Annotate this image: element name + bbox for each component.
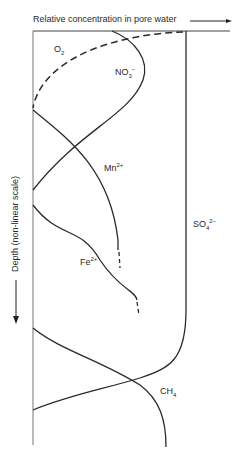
depth-arrow-icon	[13, 316, 19, 324]
fe-curve	[33, 205, 137, 300]
ch4-curve	[33, 328, 166, 447]
no3-curve	[33, 31, 145, 190]
label-so4: SO42−	[193, 218, 216, 231]
x-axis-arrow-icon	[226, 19, 232, 23]
y-axis-label: Depth (non-linear scale)	[10, 176, 20, 272]
label-o2: O2	[54, 44, 64, 56]
label-mn: Mn2+	[104, 162, 123, 173]
mn-curve-dashed-end	[119, 252, 120, 268]
label-no3: NO3−	[115, 66, 135, 79]
mn-curve	[33, 110, 118, 250]
label-ch4: CH4	[160, 386, 176, 398]
x-axis-label: Relative concentration in pore water	[33, 14, 177, 24]
fe-curve-dashed-end	[137, 302, 139, 315]
label-fe: Fe2+	[80, 256, 97, 267]
so4-curve	[33, 31, 186, 410]
